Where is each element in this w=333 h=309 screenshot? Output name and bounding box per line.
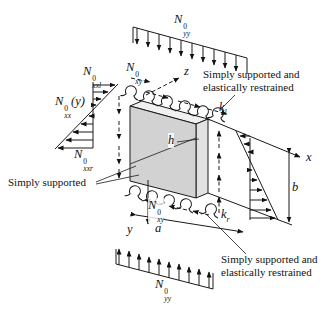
- x-axis-label: x: [306, 150, 312, 165]
- annotation-top-line2: elastically restrained: [203, 81, 300, 94]
- annotation-supported-restrained-bottom: Simply supported and elastically restrai…: [221, 253, 318, 278]
- label-nxx-of-y: N0xx(y): [55, 94, 85, 119]
- dim-b-label: b: [292, 180, 298, 195]
- z-axis-label: z: [184, 64, 189, 79]
- label-nxxr: N0xxr: [74, 147, 93, 172]
- rotational-spring-icon: [125, 184, 145, 200]
- rotational-spring-icon: [120, 84, 141, 101]
- label-nyy-bottom: N0yy: [155, 277, 171, 302]
- annotation-simply-supported: Simply supported: [8, 176, 86, 189]
- label-nyy-top: N0yy: [174, 12, 190, 37]
- thickness-h-label: h: [168, 133, 174, 148]
- z-axis-arrow: [146, 78, 179, 95]
- annotation-top-line1: Simply supported and: [203, 68, 300, 81]
- label-nxy-top: N0xy: [126, 60, 142, 85]
- rotational-spring-icon-kr: [201, 202, 221, 218]
- y-axis-label: y: [127, 222, 133, 237]
- load-nxx-right: [236, 131, 278, 220]
- dim-a-label: a: [155, 221, 161, 236]
- annotation-bottom-line2: elastically restrained: [221, 266, 318, 279]
- plate-loading-diagram: N0yy N0xy N0xxl N0xx(y) N0xxr N0xy N0yy …: [0, 0, 333, 309]
- label-nxy-bottom: N0xy: [148, 198, 164, 223]
- rotational-spring-icon: [176, 197, 196, 213]
- annotation-bottom-line1: Simply supported and: [221, 253, 318, 266]
- label-spring-stiffness-kl: kl: [219, 100, 227, 117]
- plate-side-face: [196, 119, 208, 198]
- x-axis-arrow: [208, 119, 300, 157]
- label-spring-stiffness-kr: kr: [221, 207, 230, 224]
- annotation-supported-restrained-top: Simply supported and elastically restrai…: [203, 68, 300, 93]
- label-nxxl: N0xxl: [83, 64, 101, 89]
